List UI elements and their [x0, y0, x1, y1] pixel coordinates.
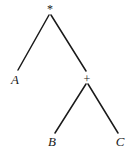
node-plus: +: [84, 72, 91, 86]
expression-tree: * A + B C: [0, 0, 131, 153]
edge-plus-b: [55, 84, 86, 133]
node-b: B: [48, 134, 56, 149]
node-multiply: *: [47, 2, 53, 16]
edge-root-a: [18, 15, 49, 70]
edge-plus-c: [88, 84, 118, 133]
edge-root-plus: [51, 15, 86, 71]
node-a: A: [10, 72, 19, 87]
node-c: C: [116, 134, 125, 149]
